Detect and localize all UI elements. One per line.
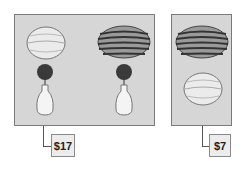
honeydew-melon-icon: [25, 25, 67, 61]
group-2-panel: [171, 14, 232, 126]
watermelon-icon: [97, 25, 151, 59]
flower-vase-icon: [112, 63, 136, 117]
group-2-price-tag: $7: [209, 134, 231, 157]
flower-vase-icon: [33, 63, 57, 117]
honeydew-melon-icon: [182, 71, 224, 107]
watermelon-icon: [175, 25, 229, 59]
group-1-panel: [14, 14, 155, 126]
group-1-price-tag: $17: [51, 134, 75, 157]
